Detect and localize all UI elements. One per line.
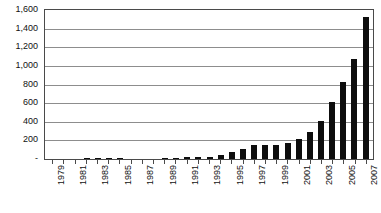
bar-slot — [193, 10, 204, 159]
x-tick — [81, 160, 92, 164]
x-tick — [282, 160, 293, 164]
bar[interactable] — [140, 159, 146, 160]
x-tick — [114, 160, 125, 164]
bar-slot — [59, 10, 70, 159]
y-tick-label: 600 — [23, 98, 38, 107]
x-label-slot: 1997 — [249, 165, 260, 211]
bar[interactable] — [73, 159, 79, 160]
x-label-slot: 2001 — [293, 165, 304, 211]
bar[interactable] — [351, 59, 357, 159]
tick-mark — [142, 160, 143, 164]
bar-slot — [115, 10, 126, 159]
y-tick-label: 1,000 — [15, 60, 38, 69]
x-label-slot: 1986 — [125, 165, 136, 211]
x-label-slot: 1989 — [159, 165, 170, 211]
y-tick-label: 1,600 — [15, 5, 38, 14]
tick-mark — [355, 160, 356, 164]
bar[interactable] — [218, 155, 224, 159]
bar[interactable] — [296, 139, 302, 159]
x-tick — [103, 160, 114, 164]
x-label-slot: 1979 — [47, 165, 58, 211]
x-tick — [204, 160, 215, 164]
x-tick — [215, 160, 226, 164]
x-tick — [327, 160, 338, 164]
bar[interactable] — [129, 159, 135, 160]
tick-mark — [164, 160, 165, 164]
bars-group — [45, 10, 373, 159]
tick-mark — [254, 160, 255, 164]
y-tick-label: 400 — [23, 116, 38, 125]
tick-mark — [63, 160, 64, 164]
bar[interactable] — [340, 82, 346, 159]
x-tick — [260, 160, 271, 164]
bar-slot — [148, 10, 159, 159]
bar[interactable] — [151, 159, 157, 160]
x-label-slot: 1985 — [114, 165, 125, 211]
tick-mark — [321, 160, 322, 164]
x-tick — [271, 160, 282, 164]
x-tick — [249, 160, 260, 164]
x-tick — [181, 160, 192, 164]
bar-slot — [171, 10, 182, 159]
x-label-slot: 1984 — [103, 165, 114, 211]
bar[interactable] — [240, 149, 246, 159]
bar-slot — [48, 10, 59, 159]
bar-slot — [260, 10, 271, 159]
bar[interactable] — [195, 157, 201, 159]
bar[interactable] — [262, 145, 268, 159]
bar[interactable] — [329, 102, 335, 159]
x-tick-label: 2007 — [370, 165, 379, 185]
x-tick — [92, 160, 103, 164]
bar[interactable] — [251, 145, 257, 159]
bar[interactable] — [273, 145, 279, 159]
bar[interactable] — [162, 158, 168, 159]
x-label-slot: 1991 — [181, 165, 192, 211]
bar[interactable] — [307, 132, 313, 159]
bar[interactable] — [95, 158, 101, 159]
bar[interactable] — [285, 143, 291, 159]
bar[interactable] — [62, 159, 68, 160]
y-tick-label: - — [35, 154, 38, 163]
bar[interactable] — [84, 158, 90, 159]
bar[interactable] — [51, 159, 57, 160]
tick-mark — [75, 160, 76, 164]
tick-mark — [52, 160, 53, 164]
x-label-slot: 1987 — [137, 165, 148, 211]
tick-mark — [86, 160, 87, 164]
y-tick-label: 1,200 — [15, 42, 38, 51]
bar[interactable] — [184, 157, 190, 159]
bar[interactable] — [207, 157, 213, 159]
x-label-slot: 2005 — [338, 165, 349, 211]
x-label-slot: 1993 — [204, 165, 215, 211]
bar[interactable] — [318, 121, 324, 159]
tick-mark — [153, 160, 154, 164]
bar[interactable] — [173, 158, 179, 159]
x-label-slot: 2003 — [316, 165, 327, 211]
tick-mark — [299, 160, 300, 164]
x-tick — [316, 160, 327, 164]
tick-mark — [366, 160, 367, 164]
plot-area — [44, 9, 374, 160]
tick-mark — [119, 160, 120, 164]
x-tick — [293, 160, 304, 164]
x-label-slot: 1982 — [81, 165, 92, 211]
bar-slot — [137, 10, 148, 159]
x-label-slot: 2007 — [361, 165, 372, 211]
bar-slot — [327, 10, 338, 159]
x-label-slot: 2000 — [282, 165, 293, 211]
bar[interactable] — [117, 158, 123, 159]
tick-mark — [220, 160, 221, 164]
x-label-slot: 1983 — [92, 165, 103, 211]
x-tick — [305, 160, 316, 164]
bar-slot — [126, 10, 137, 159]
x-label-slot: 1995 — [226, 165, 237, 211]
bar[interactable] — [229, 152, 235, 159]
y-tick-label: 800 — [23, 79, 38, 88]
x-tick — [137, 160, 148, 164]
bar[interactable] — [363, 17, 369, 159]
x-label-slot: 1999 — [271, 165, 282, 211]
x-tick — [58, 160, 69, 164]
bar-slot — [338, 10, 349, 159]
y-tick-label: 200 — [23, 135, 38, 144]
bar[interactable] — [106, 158, 112, 159]
